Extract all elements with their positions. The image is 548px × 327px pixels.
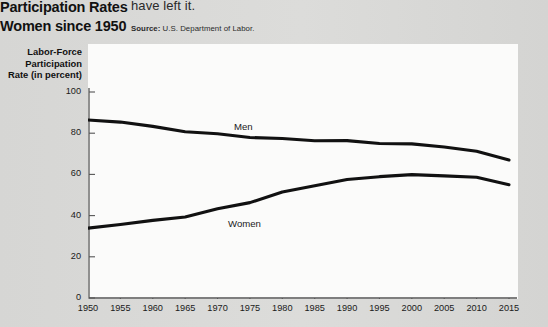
source-text: U.S. Department of Labor. [163, 24, 255, 33]
chart-series [88, 120, 509, 228]
x-tick-label: 2005 [426, 303, 462, 313]
body-text-fragment: have left it. [131, 0, 195, 14]
y-tick-label: 20 [55, 251, 81, 261]
x-tick-label: 2010 [459, 303, 495, 313]
x-tick-label: 1995 [361, 303, 397, 313]
x-tick-label: 1990 [329, 303, 365, 313]
y-tick-label: 40 [55, 210, 81, 220]
series-label-women: Women [228, 218, 261, 229]
x-tick-label: 1985 [297, 303, 333, 313]
chart-svg [88, 44, 518, 299]
source-note: Source: U.S. Department of Labor. [131, 24, 254, 33]
x-tick-label: 2015 [491, 303, 527, 313]
series-line-men [88, 120, 509, 160]
y-axis-title-line-3: Rate (in percent) [0, 69, 82, 81]
x-tick-label: 1980 [264, 303, 300, 313]
y-tick-label: 0 [55, 292, 81, 302]
y-tick-label: 80 [55, 127, 81, 137]
chart-axes [88, 88, 517, 299]
chart-plot-area [88, 44, 518, 299]
y-tick-label: 60 [55, 168, 81, 178]
source-label: Source: [131, 24, 160, 33]
x-tick-label: 1950 [70, 303, 106, 313]
x-tick-label: 1965 [167, 303, 203, 313]
x-tick-label: 1955 [102, 303, 138, 313]
y-axis-title-line-2: Participation [0, 58, 82, 70]
series-label-men: Men [234, 121, 253, 132]
y-axis-title: Labor-Force Participation Rate (in perce… [0, 46, 82, 81]
x-tick-label: 1970 [200, 303, 236, 313]
figure-root: Participation Rates Women since 1950 hav… [0, 0, 548, 327]
x-tick-label: 1975 [232, 303, 268, 313]
y-tick-label: 100 [55, 86, 81, 96]
x-tick-label: 1960 [135, 303, 171, 313]
series-line-women [88, 175, 509, 229]
y-axis-title-line-1: Labor-Force [0, 46, 82, 58]
x-tick-label: 2000 [394, 303, 430, 313]
